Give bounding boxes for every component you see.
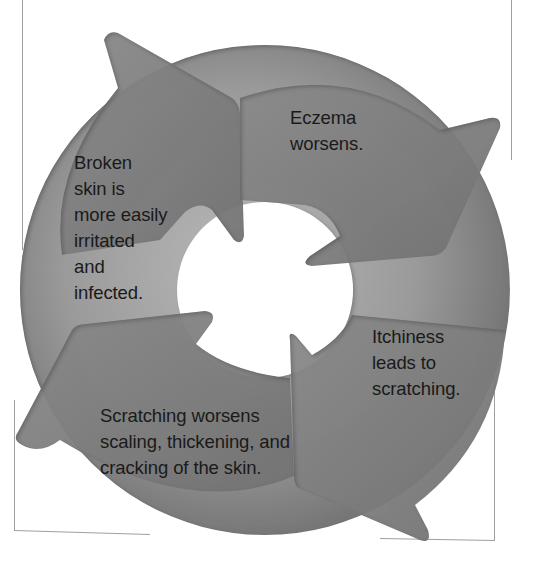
step-label-broken-skin: Broken skin is more easily irritated and… — [74, 150, 168, 306]
step-label-itchiness: Itchiness leads to scratching. — [372, 324, 460, 402]
step-label-eczema-worsens: Eczema worsens. — [290, 105, 363, 157]
step-label-scratching-worsens: Scratching worsens scaling, thickening, … — [100, 403, 290, 481]
eczema-cycle-diagram: Eczema worsens. Itchiness leads to scrat… — [0, 0, 534, 563]
